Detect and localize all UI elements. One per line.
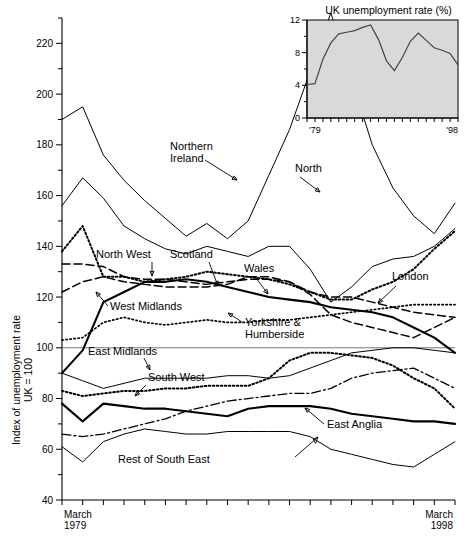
series-label-north: North — [295, 162, 322, 174]
chart-figure: 406080100120140160180200220March1979Marc… — [0, 0, 470, 538]
series-label-north_west: North West — [96, 248, 151, 260]
x-axis-end-label-line2: 1998 — [431, 520, 454, 531]
series-line-london — [62, 368, 455, 437]
series-label-wales: Wales — [244, 262, 275, 274]
y-tick-label: 220 — [36, 38, 53, 49]
series-label-northern_ireland: Ireland — [170, 152, 204, 164]
series-label-east_midlands: East Midlands — [88, 345, 158, 357]
y-tick-label: 80 — [42, 393, 54, 404]
series-label-scotland: Scotland — [170, 248, 213, 260]
series-label-west_midlands: West Midlands — [110, 300, 182, 312]
series-line-south-west — [62, 353, 455, 409]
inset-plot-background — [307, 20, 458, 118]
chart-canvas: 406080100120140160180200220March1979Marc… — [0, 0, 470, 538]
inset-y-tick-label: 12 — [290, 15, 300, 25]
series-leader-wales — [256, 278, 268, 294]
inset-y-tick-label: 0 — [295, 113, 300, 123]
y-axis-title-line2: UK = 100 — [22, 358, 34, 402]
y-tick-label: 180 — [36, 139, 53, 150]
y-tick-label: 100 — [36, 342, 53, 353]
y-tick-label: 40 — [42, 495, 54, 506]
inset-x-start-label: '79 — [309, 125, 321, 135]
series-label-yorkshire: Humberside — [245, 328, 304, 340]
series-label-yorkshire: Yorkshire & — [245, 316, 302, 328]
series-leader-northern_ireland — [205, 160, 237, 180]
series-leader-london — [378, 286, 396, 303]
series-leader-north — [300, 177, 320, 192]
series-line-north — [62, 178, 455, 302]
series-label-south_west: South West — [148, 371, 205, 383]
series-leader-east_midlands — [144, 358, 150, 370]
x-axis-start-label-line2: 1979 — [64, 520, 87, 531]
series-label-london: London — [392, 270, 429, 282]
series-leader-rest-of-south-east — [295, 437, 318, 457]
series-label-east_anglia: East Anglia — [327, 418, 383, 430]
y-tick-label: 140 — [36, 241, 53, 252]
x-axis-end-label-line1: March — [425, 509, 453, 520]
series-leader-east_anglia — [305, 408, 324, 424]
series-line-east-anglia — [62, 404, 455, 424]
y-axis-title-line1: Index of unemployment rate — [10, 315, 22, 445]
series-leader-arrow-east_midlands — [146, 365, 150, 370]
y-tick-label: 200 — [36, 89, 53, 100]
inset-y-tick-label: 8 — [295, 48, 300, 58]
series-label-rest_of_south_east: Rest of South East — [118, 453, 210, 465]
inset-title: UK unemployment rate (%) — [325, 4, 452, 16]
series-leader-yorkshire — [228, 313, 242, 322]
series-label-northern_ireland: Northern — [170, 140, 213, 152]
x-axis-start-label-line1: March — [64, 509, 92, 520]
inset-y-tick-label: 4 — [295, 80, 300, 90]
y-tick-label: 160 — [36, 190, 53, 201]
inset-x-end-label: '98 — [446, 125, 458, 135]
y-tick-label: 120 — [36, 292, 53, 303]
y-tick-label: 60 — [42, 444, 54, 455]
